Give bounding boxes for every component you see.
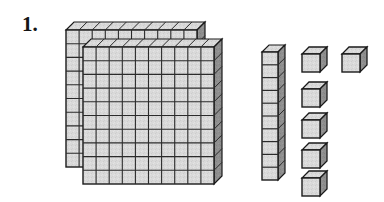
ones-cube bbox=[302, 82, 327, 107]
ones-cube bbox=[342, 47, 367, 72]
ones-cube bbox=[302, 113, 327, 138]
ones-cube bbox=[302, 171, 327, 196]
ones-cube bbox=[302, 47, 327, 72]
ones-cube bbox=[302, 143, 327, 168]
tens-rod bbox=[262, 45, 285, 180]
hundreds-flat-front bbox=[83, 39, 222, 184]
base-ten-blocks-figure bbox=[0, 0, 384, 202]
worksheet-illustration: 1. bbox=[0, 0, 384, 202]
